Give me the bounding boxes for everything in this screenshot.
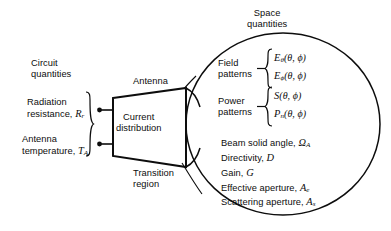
quantity-effective-aperture: Effective aperture, Ae (221, 182, 316, 197)
quantity-directivity: Directivity, D (221, 152, 316, 167)
antenna-temperature-line2: temperature, TA (22, 145, 88, 159)
field-patterns-label: Field patterns (218, 58, 252, 80)
current-distribution-label: Current distribution (116, 112, 162, 134)
transition-flare-upper (186, 88, 200, 107)
antenna-label: Antenna (133, 76, 168, 87)
transition-pointer-lower (184, 76, 196, 89)
equation-pn: Pn(θ, ϕ) (274, 108, 306, 122)
radiation-resistance-label: Radiation resistance, Rr (27, 97, 84, 123)
quantity-gain: Gain, G (221, 167, 316, 182)
antenna-regions-diagram: Circuit quantities Radiation resistance,… (0, 0, 391, 231)
antenna-temperature-line1: Antenna (22, 134, 88, 145)
equation-e-theta: Eθ(θ, ϕ) (274, 52, 306, 66)
radiation-resistance-text: resistance, (27, 109, 73, 119)
antenna-temperature-text: temperature, (22, 146, 75, 156)
radiation-resistance-symbol: Rr (75, 108, 84, 119)
space-quantities-heading: Space quantities (247, 8, 287, 30)
circuit-quantities-line1: Circuit (31, 58, 71, 69)
transition-pointer-upper (182, 163, 202, 194)
antenna-temperature-label: Antenna temperature, TA (22, 134, 88, 160)
current-distribution-line1: Current (116, 112, 162, 123)
terminal-dot-upper (97, 108, 102, 113)
space-quantities-line1: Space (247, 8, 287, 19)
circuit-quantities-line2: quantities (31, 69, 71, 80)
quantity-scattering-aperture: Scattering aperture, As (221, 196, 316, 211)
transition-region-line2: region (133, 179, 174, 190)
circuit-quantities-heading: Circuit quantities (31, 58, 71, 80)
field-patterns-brace (265, 49, 272, 88)
antenna-temperature-symbol: TA (78, 145, 88, 156)
power-patterns-label: Power patterns (218, 96, 252, 118)
current-distribution-line2: distribution (116, 123, 162, 134)
field-patterns-line2: patterns (218, 69, 252, 80)
transition-flare-lower (186, 148, 200, 167)
radiation-resistance-line1: Radiation (27, 97, 84, 108)
equation-s: S(θ, ϕ) (274, 90, 301, 104)
space-quantity-list: Beam solid angle, ΩA Directivity, D Gain… (221, 137, 316, 211)
transition-region-line1: Transition (133, 168, 174, 179)
space-quantities-line2: quantities (247, 19, 287, 30)
equation-e-phi: Eϕ(θ, ϕ) (274, 70, 306, 84)
radiation-resistance-line2: resistance, Rr (27, 108, 84, 122)
power-patterns-line1: Power (218, 96, 252, 107)
field-patterns-line1: Field (218, 58, 252, 69)
quantity-beam-solid-angle: Beam solid angle, ΩA (221, 137, 316, 152)
transition-region-label: Transition region (133, 168, 174, 190)
power-patterns-line2: patterns (218, 107, 252, 118)
power-patterns-brace (265, 87, 272, 126)
terminal-dot-lower (97, 142, 102, 147)
